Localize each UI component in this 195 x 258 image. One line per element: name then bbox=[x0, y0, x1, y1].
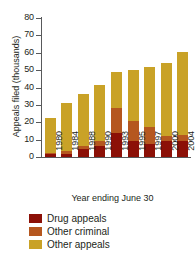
bar-segment bbox=[144, 67, 155, 128]
x-axis-tick-label-text: 2000 bbox=[171, 131, 180, 161]
x-axis-tick-label-text: 1993 bbox=[121, 131, 130, 161]
legend-item: Other appeals bbox=[29, 238, 179, 250]
x-axis-tick-label-text: 2004 bbox=[187, 131, 195, 161]
legend-swatch bbox=[29, 227, 42, 236]
legend-label: Other criminal bbox=[47, 226, 109, 237]
legend-label: Drug appeals bbox=[47, 213, 106, 224]
x-axis-tick-label-text: 1990 bbox=[104, 131, 113, 161]
bar-segment bbox=[128, 70, 139, 120]
bar-segment bbox=[111, 72, 122, 108]
y-axis-tick bbox=[36, 157, 41, 158]
legend-label: Other appeals bbox=[47, 239, 110, 250]
bar-segment bbox=[161, 63, 172, 136]
x-axis-tick-label-text: 1984 bbox=[71, 131, 80, 161]
x-axis-tick-label-text: 1980 bbox=[55, 131, 64, 161]
chart-legend: Drug appealsOther criminalOther appeals bbox=[29, 212, 179, 251]
bar-segment bbox=[111, 108, 122, 132]
x-axis-tick-label-text: 1997 bbox=[154, 131, 163, 161]
legend-item: Other criminal bbox=[29, 225, 179, 237]
x-axis-tick-label-text: 1995 bbox=[138, 131, 147, 161]
bar-segment bbox=[177, 52, 188, 135]
y-axis-title: Appeals filed (thousands) bbox=[12, 17, 21, 157]
legend-item: Drug appeals bbox=[29, 212, 179, 224]
legend-swatch bbox=[29, 240, 42, 249]
x-axis-title: Year ending June 30 bbox=[30, 193, 195, 203]
legend-swatch bbox=[29, 214, 42, 223]
stacked-bar-chart: 01020304050607080 Appeals filed (thousan… bbox=[0, 0, 195, 258]
x-axis-tick-label-text: 1988 bbox=[88, 131, 97, 161]
